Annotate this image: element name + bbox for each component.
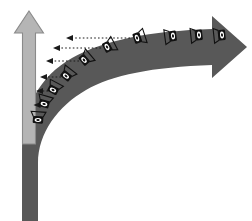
curved-dark-arrow bbox=[22, 16, 247, 221]
figure-canvas bbox=[0, 0, 252, 221]
diagram-svg bbox=[0, 0, 252, 221]
